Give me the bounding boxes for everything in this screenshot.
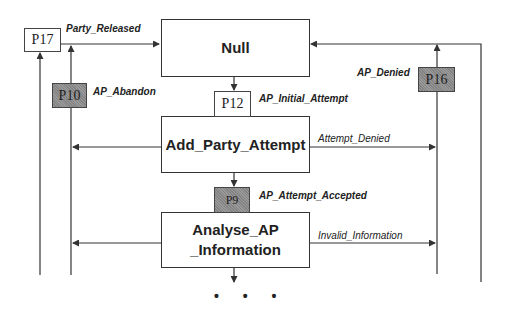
place-p10: P10 bbox=[52, 83, 87, 108]
place-p17: P17 bbox=[24, 28, 61, 52]
label-ap-abandon: AP_Abandon bbox=[93, 86, 156, 97]
state-null: Null bbox=[161, 19, 310, 77]
place-p9-label: P9 bbox=[226, 193, 239, 208]
label-ap-attempt-accepted: AP_Attempt_Accepted bbox=[259, 190, 367, 201]
place-p12: P12 bbox=[214, 91, 251, 117]
label-ap-initial-attempt: AP_Initial_Attempt bbox=[259, 93, 348, 104]
place-p10-label: P10 bbox=[59, 88, 81, 104]
state-add-party-attempt-label: Add_Party_Attempt bbox=[165, 135, 305, 155]
label-ap-denied: AP_Denied bbox=[357, 67, 410, 78]
label-party-released: Party_Released bbox=[66, 23, 141, 34]
state-add-party-attempt: Add_Party_Attempt bbox=[161, 116, 310, 173]
place-p16-label: P16 bbox=[426, 72, 448, 88]
state-analyse-ap-information: Analyse_AP _Information bbox=[161, 212, 310, 268]
place-p12-label: P12 bbox=[222, 96, 244, 112]
place-p16: P16 bbox=[418, 67, 455, 92]
label-attempt-denied: Attempt_Denied bbox=[318, 133, 390, 144]
continuation-dots: • • • bbox=[214, 288, 286, 304]
label-invalid-information: Invalid_Information bbox=[318, 230, 403, 241]
place-p9: P9 bbox=[214, 187, 250, 213]
state-analyse-label-line1: Analyse_AP bbox=[192, 220, 279, 240]
state-analyse-label-line2: _Information bbox=[190, 240, 281, 260]
state-null-label: Null bbox=[221, 38, 249, 58]
place-p17-label: P17 bbox=[32, 32, 54, 48]
